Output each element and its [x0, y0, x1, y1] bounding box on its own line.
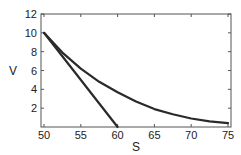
x-tick-label: 65: [148, 129, 160, 141]
y-axis-label: V: [9, 64, 17, 78]
y-tick-label: 6: [31, 65, 37, 77]
y-tick-label: 2: [31, 102, 37, 114]
x-tick-label: 55: [75, 129, 87, 141]
y-tick-label: 10: [25, 27, 37, 39]
y-tick-label: 8: [31, 46, 37, 58]
x-tick-label: 75: [222, 129, 234, 141]
y-tick-label: 4: [31, 83, 37, 95]
x-axis-ticks: 505560657075: [38, 14, 234, 141]
x-tick-label: 60: [111, 129, 123, 141]
series-curve: [44, 33, 228, 123]
y-tick-label: 12: [25, 8, 37, 20]
x-axis-label: S: [132, 140, 140, 154]
chart: 505560657075 24681012 S V: [0, 0, 241, 155]
plot-frame: [41, 14, 231, 127]
data-series: [44, 33, 228, 127]
x-tick-label: 50: [38, 129, 50, 141]
series-line: [44, 33, 118, 127]
x-tick-label: 70: [185, 129, 197, 141]
